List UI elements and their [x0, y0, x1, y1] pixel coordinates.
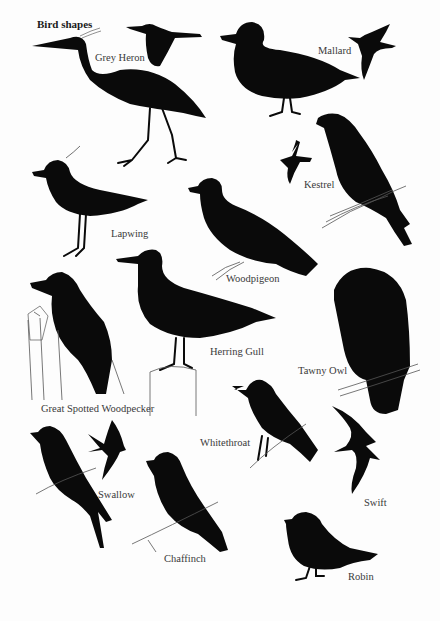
great-spotted-woodpecker-silhouette — [28, 272, 124, 400]
label-woodpigeon: Woodpigeon — [226, 273, 279, 284]
robin-silhouette — [284, 512, 378, 580]
bird-silhouettes-illustration — [0, 0, 440, 621]
book-page: Bird shapes Grey Heron Mallard Kestrel L… — [0, 0, 440, 621]
tawny-owl-silhouette — [334, 268, 420, 414]
mallard-flying-silhouette — [348, 24, 396, 80]
label-robin: Robin — [348, 571, 374, 582]
swallow-flying-silhouette — [88, 420, 126, 480]
page-title: Bird shapes — [37, 18, 92, 30]
label-swallow: Swallow — [98, 489, 135, 500]
label-grey-heron: Grey Heron — [95, 52, 145, 63]
woodpigeon-silhouette — [188, 178, 318, 280]
grey-heron-silhouette — [32, 28, 206, 166]
chaffinch-silhouette — [132, 452, 228, 552]
swift-silhouette — [332, 406, 380, 494]
label-whitethroat: Whitethroat — [200, 437, 250, 448]
lapwing-silhouette — [32, 146, 148, 256]
label-kestrel: Kestrel — [304, 179, 334, 190]
label-swift: Swift — [364, 497, 387, 508]
label-tawny-owl: Tawny Owl — [298, 365, 347, 376]
label-lapwing: Lapwing — [111, 228, 148, 239]
mallard-silhouette — [220, 22, 360, 116]
label-mallard: Mallard — [318, 45, 351, 56]
kestrel-flying-silhouette — [280, 140, 312, 184]
label-herring-gull: Herring Gull — [210, 346, 264, 357]
whitethroat-silhouette — [232, 380, 318, 468]
label-great-spotted-woodpecker: Great Spotted Woodpecker — [41, 403, 154, 414]
label-chaffinch: Chaffinch — [164, 553, 206, 564]
